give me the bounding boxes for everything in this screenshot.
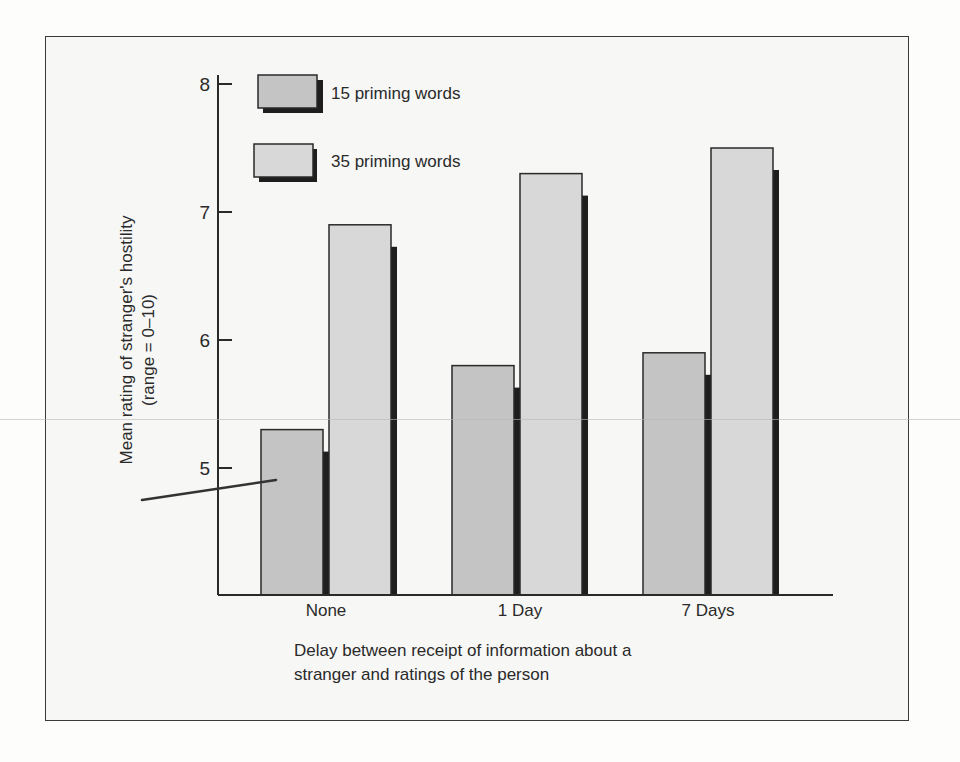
legend-label-15-priming-words: 15 priming words — [331, 84, 460, 103]
x-tick-label-7-days: 7 Days — [682, 601, 735, 620]
legend-item-35-priming-words: 35 priming words — [254, 144, 460, 182]
x-tick-label-1-day: 1 Day — [498, 601, 543, 620]
x-axis-title-line-1: Delay between receipt of information abo… — [294, 641, 632, 660]
bar-chart: Mean rating of stranger's hostility (ran… — [0, 0, 960, 762]
bar-shadow-1-day-35-priming-words — [582, 196, 588, 595]
y-tick-label-7: 7 — [199, 202, 210, 223]
y-tick-label-5: 5 — [199, 458, 210, 479]
bars — [261, 148, 779, 595]
bar-1-day-35-priming-words — [520, 174, 582, 595]
stray-pen-mark — [142, 480, 276, 500]
y-axis-title-line-2: (range = 0–10) — [139, 294, 158, 406]
bar-1-day-15-priming-words — [452, 366, 514, 595]
y-tick-label-8: 8 — [199, 74, 210, 95]
scan-artifact-line — [0, 419, 960, 420]
y-axis-title-line-1: Mean rating of stranger's hostility — [117, 215, 136, 464]
bar-shadow-7-days-35-priming-words — [773, 170, 779, 595]
bar-none-15-priming-words — [261, 430, 323, 595]
legend-label-35-priming-words: 35 priming words — [331, 152, 460, 171]
legend: 15 priming words 35 priming words — [254, 75, 460, 182]
x-axis-category-labels: None 1 Day 7 Days — [306, 601, 735, 620]
y-axis-title: Mean rating of stranger's hostility (ran… — [117, 215, 158, 464]
x-axis-title-line-2: stranger and ratings of the person — [294, 665, 549, 684]
bar-shadow-none-35-priming-words — [391, 247, 397, 595]
legend-swatch-35 — [254, 144, 313, 177]
bar-shadow-none-15-priming-words — [323, 452, 329, 595]
legend-item-15-priming-words: 15 priming words — [258, 75, 460, 113]
bar-7-days-15-priming-words — [643, 353, 705, 595]
bar-none-35-priming-words — [329, 225, 391, 595]
bar-7-days-35-priming-words — [711, 148, 773, 595]
x-axis-title: Delay between receipt of information abo… — [294, 641, 632, 684]
y-tick-label-6: 6 — [199, 330, 210, 351]
legend-swatch-15 — [258, 75, 317, 108]
bar-shadow-7-days-15-priming-words — [705, 375, 711, 595]
x-tick-label-none: None — [306, 601, 347, 620]
